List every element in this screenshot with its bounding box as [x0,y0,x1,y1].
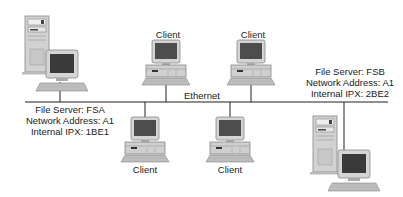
client-top-1-icon [142,40,190,85]
file-server-fsb-info: File Server: FSB Network Address: A1 Int… [300,66,400,99]
client-bottom-1-icon [121,117,169,162]
fsb-internal-ipx: Internal IPX: 2BE2 [300,88,400,99]
file-server-fsa-info: File Server: FSA Network Address: A1 Int… [20,104,120,137]
client-top-2-icon [227,40,275,85]
fsa-network-address: Network Address: A1 [20,115,120,126]
client-top-1-label: Client [143,29,193,40]
client-top-2-label: Client [228,29,278,40]
client-bottom-2-label: Client [205,164,255,175]
fsa-name: File Server: FSA [20,104,120,115]
fsa-internal-ipx: Internal IPX: 1BE1 [20,126,120,137]
ethernet-label: Ethernet [172,90,232,101]
client-bottom-2-icon [206,117,254,162]
file-server-fsb-icon [310,116,380,191]
fsb-name: File Server: FSB [300,66,400,77]
client-bottom-1-label: Client [120,164,170,175]
fsb-network-address: Network Address: A1 [300,77,400,88]
file-server-fsa-icon [22,16,88,91]
